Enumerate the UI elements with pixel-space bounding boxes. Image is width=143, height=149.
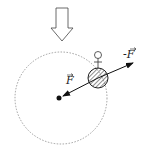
diagram-canvas: F -F <box>0 0 143 149</box>
down-arrow-icon <box>51 8 73 41</box>
center-point <box>57 96 62 101</box>
person-figure-icon <box>94 52 102 69</box>
force-diagram: F -F <box>0 0 143 149</box>
reaction-force-label: -F <box>123 48 135 61</box>
force-label: F <box>65 74 74 87</box>
